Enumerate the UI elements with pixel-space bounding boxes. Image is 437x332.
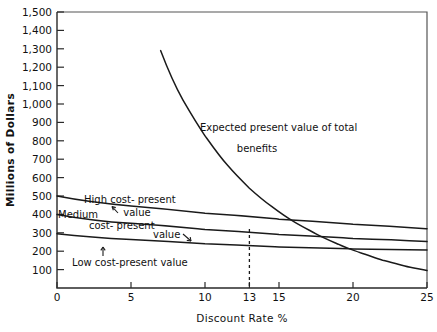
x-axis-ticks [57, 282, 427, 288]
x-tick-label-13: 13 [243, 291, 256, 303]
y-tick-label-1000: 1,000 [22, 98, 52, 110]
x-tick-label-25: 25 [420, 291, 433, 303]
y-tick-label-700: 700 [32, 153, 52, 165]
y-axis-ticks [57, 12, 64, 270]
annotation-medium-cost-line1: Medium [58, 209, 98, 220]
x-axis-tick-labels: 0 5 10 13 15 20 25 [54, 291, 434, 303]
y-tick-label-900: 900 [32, 116, 52, 128]
x-axis-title: Discount Rate % [196, 312, 287, 324]
y-tick-label-1300: 1,300 [22, 43, 52, 55]
y-tick-label-600: 600 [32, 172, 52, 184]
y-tick-label-100: 100 [32, 264, 52, 276]
annotation-high-cost-line1: High cost- present [84, 194, 176, 205]
curve-expected-benefits [161, 51, 427, 271]
annotation-benefits-line1: Expected present value of total [200, 122, 357, 133]
y-tick-label-400: 400 [32, 208, 52, 220]
x-tick-label-20: 20 [346, 291, 359, 303]
annotation-low-cost-line1: Low cost-present value [72, 257, 188, 268]
annotation-low-cost: Low cost-present value [72, 247, 188, 268]
discount-rate-line-chart: 1,500 1,400 1,300 1,200 1,100 1,000 900 … [0, 0, 437, 332]
y-tick-label-1500: 1,500 [22, 6, 52, 18]
y-tick-label-1100: 1,100 [22, 80, 52, 92]
curve-low-cost [57, 234, 427, 250]
y-tick-label-500: 500 [32, 190, 52, 202]
annotation-medium-cost-line2: cost- present [89, 220, 155, 231]
annotation-medium-cost-line3: value [153, 229, 180, 240]
x-tick-label-10: 10 [198, 291, 211, 303]
x-tick-label-5: 5 [128, 291, 135, 303]
y-axis-tick-labels: 1,500 1,400 1,300 1,200 1,100 1,000 900 … [22, 6, 52, 276]
x-tick-label-0: 0 [54, 291, 61, 303]
y-tick-label-200: 200 [32, 245, 52, 257]
annotation-benefits-line2: benefits [237, 143, 277, 154]
y-axis-title: Millions of Dollars [4, 93, 16, 207]
y-tick-label-800: 800 [32, 135, 52, 147]
chart-container: 1,500 1,400 1,300 1,200 1,100 1,000 900 … [0, 0, 437, 332]
x-tick-label-15: 15 [272, 291, 285, 303]
y-tick-label-1400: 1,400 [22, 24, 52, 36]
y-tick-label-1200: 1,200 [22, 61, 52, 73]
annotation-expected-benefits: Expected present value of total benefits [200, 122, 357, 154]
y-tick-label-300: 300 [32, 227, 52, 239]
annotation-high-cost-line2: value [123, 207, 150, 218]
